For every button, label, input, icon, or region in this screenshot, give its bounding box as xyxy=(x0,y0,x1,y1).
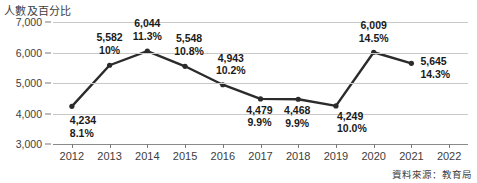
data-point-label: 4,24910.0% xyxy=(337,110,367,135)
data-point-value: 4,468 xyxy=(284,104,310,116)
y-axis: 7,0006,0005,0004,0003,000 xyxy=(0,22,53,144)
data-point-label: 4,2348.1% xyxy=(70,114,96,139)
y-tick-label: 4,000 xyxy=(16,108,42,120)
y-tick-label: 7,000 xyxy=(16,16,42,28)
x-tick-label: 2019 xyxy=(324,150,348,162)
x-tick-label: 2016 xyxy=(211,150,235,162)
data-point-percent: 8.1% xyxy=(70,127,96,139)
y-tick-mark xyxy=(45,22,51,23)
x-tick-label: 2018 xyxy=(286,150,310,162)
data-point-label: 5,54810.8% xyxy=(174,32,204,57)
x-tick-mark xyxy=(298,144,299,148)
y-tick-label: 6,000 xyxy=(16,47,42,59)
x-tick-mark xyxy=(72,144,73,148)
data-point-percent: 10.8% xyxy=(174,45,204,57)
x-tick-mark xyxy=(336,144,337,148)
gridline xyxy=(53,83,468,84)
data-point-percent: 10.0% xyxy=(337,122,367,134)
x-tick-mark xyxy=(374,144,375,148)
data-point-value: 6,044 xyxy=(133,17,162,29)
data-point-percent: 10% xyxy=(96,44,122,56)
data-point-percent: 14.5% xyxy=(359,32,389,44)
x-tick-label: 2022 xyxy=(437,150,461,162)
plot-area: 4,2348.1%5,58210%6,04411.3%5,54810.8%4,9… xyxy=(53,22,468,144)
x-tick-mark xyxy=(261,144,262,148)
data-point-marker xyxy=(296,97,301,102)
data-point-value: 4,249 xyxy=(337,110,367,122)
x-tick-label: 2014 xyxy=(135,150,159,162)
y-tick-mark xyxy=(45,83,51,84)
source-note: 資料來源：教育局 xyxy=(392,167,472,181)
data-point-marker xyxy=(182,64,187,69)
data-point-label: 6,00914.5% xyxy=(359,19,389,44)
data-point-value: 5,582 xyxy=(96,31,122,43)
data-point-percent: 9.9% xyxy=(246,116,272,128)
data-point-percent: 9.9% xyxy=(284,117,310,129)
y-tick-label: 5,000 xyxy=(16,77,42,89)
x-tick-label: 2012 xyxy=(60,150,84,162)
y-tick-mark xyxy=(45,52,51,53)
x-tick-label: 2017 xyxy=(248,150,272,162)
x-tick-label: 2020 xyxy=(361,150,385,162)
data-point-label: 5,64514.3% xyxy=(420,55,450,80)
x-tick-label: 2021 xyxy=(399,150,423,162)
data-point-percent: 10.2% xyxy=(216,64,246,76)
x-tick-mark xyxy=(110,144,111,148)
data-point-value: 4,234 xyxy=(70,114,96,126)
x-tick-label: 2013 xyxy=(97,150,121,162)
y-tick-mark xyxy=(45,144,51,145)
x-tick-mark xyxy=(185,144,186,148)
data-point-percent: 14.3% xyxy=(420,68,450,80)
data-point-label: 4,4689.9% xyxy=(284,104,310,129)
data-point-value: 5,645 xyxy=(420,55,450,67)
data-point-percent: 11.3% xyxy=(133,30,162,42)
data-point-marker xyxy=(258,96,263,101)
data-point-label: 5,58210% xyxy=(96,31,122,56)
data-point-value: 6,009 xyxy=(359,19,389,31)
y-tick-label: 3,000 xyxy=(16,138,42,150)
chart-container: 人數及百分比 7,0006,0005,0004,0003,000 4,2348.… xyxy=(0,0,477,183)
data-point-marker xyxy=(333,103,338,108)
x-tick-mark xyxy=(223,144,224,148)
data-point-label: 6,04411.3% xyxy=(133,17,162,42)
x-tick-label: 2015 xyxy=(173,150,197,162)
data-point-value: 5,548 xyxy=(174,32,204,44)
data-point-marker xyxy=(409,61,414,66)
gridline xyxy=(53,22,468,23)
data-point-marker xyxy=(69,104,74,109)
x-tick-mark xyxy=(147,144,148,148)
data-point-marker xyxy=(107,63,112,68)
y-tick-mark xyxy=(45,113,51,114)
x-tick-mark xyxy=(449,144,450,148)
data-point-label: 4,94310.2% xyxy=(216,52,246,77)
data-point-label: 4,4799.9% xyxy=(246,104,272,129)
data-point-value: 4,479 xyxy=(246,104,272,116)
data-point-value: 4,943 xyxy=(216,52,246,64)
x-tick-mark xyxy=(411,144,412,148)
